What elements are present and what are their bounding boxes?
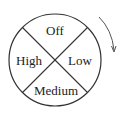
dial-diagram: Off Low Medium High [0, 0, 118, 117]
segment-label-off: Off [46, 23, 64, 38]
segment-label-low: Low [68, 53, 92, 68]
segment-label-high: High [16, 53, 43, 68]
clockwise-arrow-icon [99, 17, 116, 52]
segment-label-medium: Medium [34, 83, 78, 98]
